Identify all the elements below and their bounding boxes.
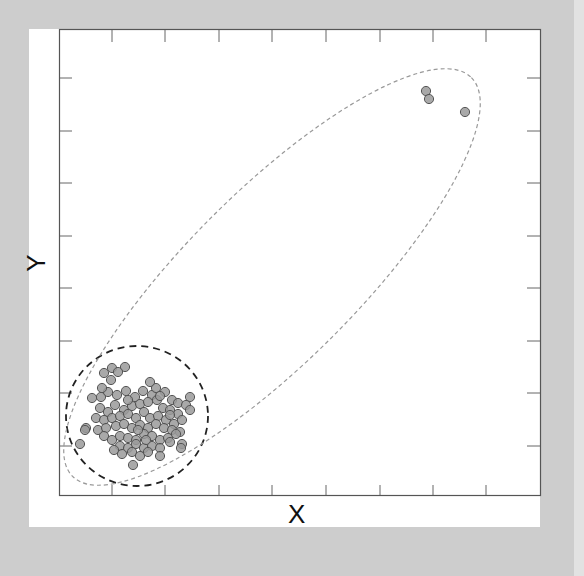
cluster-point [165, 410, 174, 419]
cluster-point [112, 390, 121, 399]
cluster-point [155, 451, 164, 460]
cluster-point [109, 445, 118, 454]
cluster-point [121, 386, 130, 395]
x-axis-label: X [288, 501, 305, 527]
cluster-point [171, 429, 180, 438]
cluster-point [97, 383, 106, 392]
cluster-point [177, 415, 186, 424]
cluster-point [75, 439, 84, 448]
cluster-point [145, 377, 154, 386]
cluster-point [141, 435, 150, 444]
boundary-ellipses [12, 17, 531, 536]
cluster-point [133, 425, 142, 434]
y-axis-label: Y [23, 254, 49, 271]
cluster-point [165, 437, 174, 446]
cluster-point [128, 460, 137, 469]
cluster-point [99, 368, 108, 377]
cluster-point [113, 367, 122, 376]
outlier-point [460, 107, 469, 116]
cluster-point [106, 375, 115, 384]
cluster-point [138, 386, 147, 395]
cluster-point [80, 425, 89, 434]
cluster-point [143, 397, 152, 406]
cluster-point [185, 405, 194, 414]
cluster-point [155, 391, 164, 400]
outer-dotted-ellipse [12, 17, 531, 536]
cluster-point [87, 393, 96, 402]
cluster-point [123, 395, 132, 404]
cluster-point [110, 400, 119, 409]
outlier-point [424, 94, 433, 103]
cluster-point [143, 447, 152, 456]
cluster-point [176, 443, 185, 452]
scatter-plot [0, 0, 584, 576]
data-points [75, 86, 469, 469]
